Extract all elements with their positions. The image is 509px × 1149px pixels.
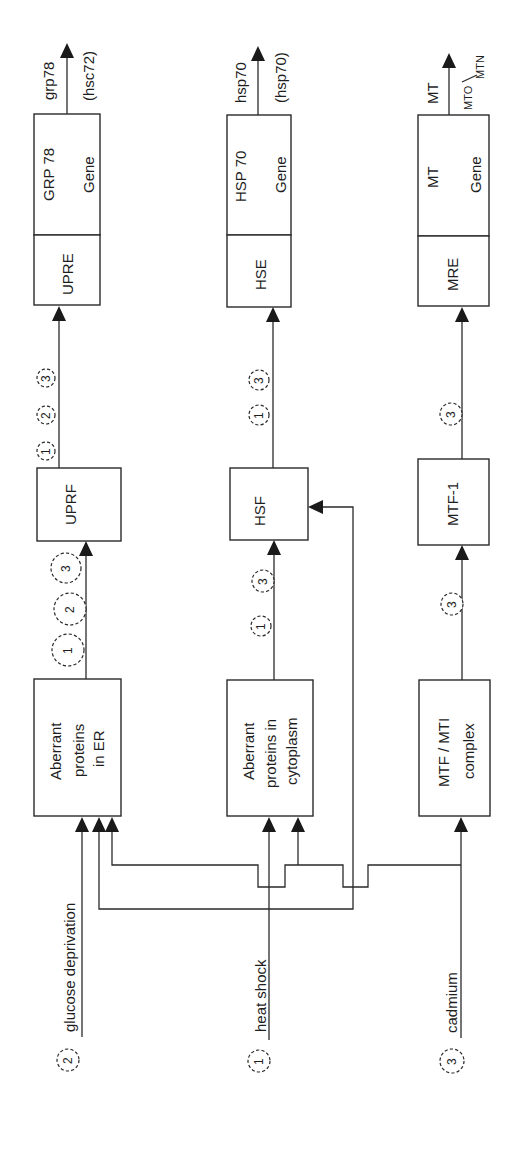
sensor-box bbox=[419, 680, 490, 816]
svg-text:2: 2 bbox=[39, 412, 53, 419]
badge-1: 1 bbox=[52, 634, 84, 666]
arrow-head-icon bbox=[262, 817, 276, 832]
badge-3: 3 bbox=[252, 570, 274, 592]
stimulus-badge-2: 2 bbox=[57, 1049, 79, 1071]
arrow-head-icon bbox=[251, 46, 265, 61]
stimulus-badge-3: 3 bbox=[440, 1049, 464, 1073]
product-label: MT bbox=[424, 82, 441, 104]
svg-text:2: 2 bbox=[63, 606, 77, 613]
svg-text:1: 1 bbox=[252, 1058, 266, 1065]
transcription-factor-label: HSF bbox=[251, 496, 268, 526]
product-label: grp78 bbox=[40, 62, 57, 100]
pathway-er: grp78 (hsc72) GRP 78 Gene UPRE 1 2 3 UPR… bbox=[34, 43, 121, 816]
badge-3: 3 bbox=[441, 593, 463, 615]
sensor-line-3: in ER bbox=[90, 730, 107, 767]
pathway-heat-shock: hsp70 (hsp70) HSP 70 Gene HSE 1 3 HSF 1 … bbox=[227, 46, 313, 816]
svg-text:1: 1 bbox=[61, 647, 75, 654]
svg-text:3: 3 bbox=[256, 578, 270, 585]
heat-shock-branch-line bbox=[99, 507, 353, 909]
stimulus-label-heat-shock: heat shock bbox=[252, 959, 269, 1032]
arrow-head-icon bbox=[60, 43, 74, 58]
sensor-line-1: Aberrant bbox=[47, 722, 64, 780]
transcription-factor-box bbox=[37, 468, 121, 541]
svg-text:3: 3 bbox=[252, 377, 266, 384]
badge-1: 1 bbox=[251, 616, 271, 636]
gene-name: HSP 70 bbox=[232, 151, 249, 202]
sensor-line-2: complex bbox=[460, 723, 477, 779]
sensor-line-2: proteins bbox=[70, 724, 87, 777]
arrow-head-icon bbox=[92, 817, 106, 832]
pathway-metal: MT MTO MTN MT Gene MRE 3 MTF-1 3 MTF / M… bbox=[418, 53, 490, 816]
transcription-factor-label: UPRF bbox=[62, 484, 79, 525]
sensor-line-1: Aberrant bbox=[240, 722, 257, 780]
arrow-head-icon bbox=[75, 817, 89, 832]
svg-text:3: 3 bbox=[39, 375, 53, 382]
svg-text:3: 3 bbox=[445, 1058, 459, 1065]
response-element-label: MRE bbox=[444, 258, 461, 291]
arrow-head-icon bbox=[266, 307, 280, 322]
gene-suffix: Gene bbox=[272, 156, 289, 193]
gene-name: MT bbox=[424, 166, 441, 188]
badge-2: 2 bbox=[37, 406, 55, 424]
response-element-label: HSE bbox=[252, 259, 269, 290]
svg-text:1: 1 bbox=[254, 623, 268, 630]
badge-3: 3 bbox=[51, 553, 81, 583]
gene-name: GRP 78 bbox=[40, 148, 57, 201]
badge-3: 3 bbox=[37, 369, 55, 387]
product-alt-label: MTO bbox=[462, 85, 474, 110]
svg-text:3: 3 bbox=[444, 411, 458, 418]
product-alt-label: (hsc72) bbox=[80, 51, 97, 101]
badge-1: 1 bbox=[37, 442, 55, 460]
arrow-head-icon bbox=[267, 540, 281, 555]
cadmium-branch-line bbox=[112, 832, 461, 887]
arrow-head-icon bbox=[442, 53, 456, 68]
arrow-head-icon bbox=[79, 541, 93, 556]
badge-1: 1 bbox=[249, 405, 269, 425]
badge-2: 2 bbox=[54, 593, 86, 625]
arrow-head-icon bbox=[105, 817, 119, 832]
sensor-line-2: proteins in bbox=[262, 719, 279, 788]
stimulus-badge-1: 1 bbox=[248, 1050, 270, 1072]
svg-text:2: 2 bbox=[61, 1057, 75, 1064]
sensor-line-1: MTF / MTI bbox=[435, 718, 452, 787]
arrow-head-icon bbox=[454, 817, 468, 832]
arrow-head-icon bbox=[455, 545, 469, 560]
response-element-label: UPRE bbox=[59, 253, 76, 295]
product-label: hsp70 bbox=[232, 62, 249, 103]
stress-response-diagram: grp78 (hsc72) GRP 78 Gene UPRE 1 2 3 UPR… bbox=[0, 0, 509, 1149]
arrow-head-icon bbox=[291, 817, 305, 832]
svg-text:1: 1 bbox=[252, 412, 266, 419]
gene-suffix: Gene bbox=[80, 156, 97, 193]
gene-suffix: Gene bbox=[467, 156, 484, 193]
arrow-head-icon bbox=[52, 306, 66, 321]
stimulus-label-glucose: glucose deprivation bbox=[61, 903, 78, 1032]
stimulus-label-cadmium: cadmium bbox=[443, 972, 460, 1033]
svg-text:3: 3 bbox=[59, 565, 73, 572]
arrow-head-icon bbox=[455, 307, 469, 322]
svg-text:3: 3 bbox=[445, 601, 459, 608]
svg-text:1: 1 bbox=[39, 448, 53, 455]
sensor-line-3: cytoplasm bbox=[283, 717, 300, 785]
transcription-factor-label: MTF-1 bbox=[444, 482, 461, 526]
product-alt-label: (hsp70) bbox=[272, 52, 289, 103]
badge-3: 3 bbox=[440, 403, 462, 425]
arrow-head-icon bbox=[308, 500, 323, 514]
transcription-factor-box bbox=[230, 468, 308, 540]
badge-3: 3 bbox=[249, 370, 269, 390]
